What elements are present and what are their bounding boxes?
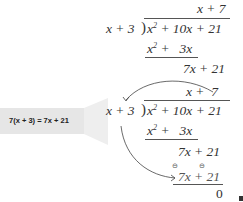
dividend-2: x2 + 10x + 21 [147, 104, 222, 118]
bracket-2: ) [141, 102, 146, 117]
subtract-line-2: x2 + 3x [147, 124, 192, 138]
underline-3 [173, 184, 223, 185]
corner-mark [239, 196, 243, 201]
final-remainder: 0 [216, 187, 223, 201]
subtract-line-2b: 7x + 21 [178, 170, 220, 184]
underline-2 [145, 139, 198, 140]
quotient-2: x + 7 [186, 85, 218, 99]
divisor-2: x + 3 [106, 104, 135, 118]
division-bar-2 [144, 100, 230, 101]
remainder-line-2: 7x + 21 [178, 145, 220, 159]
minus-circle-icon: ⊖ [172, 163, 178, 170]
